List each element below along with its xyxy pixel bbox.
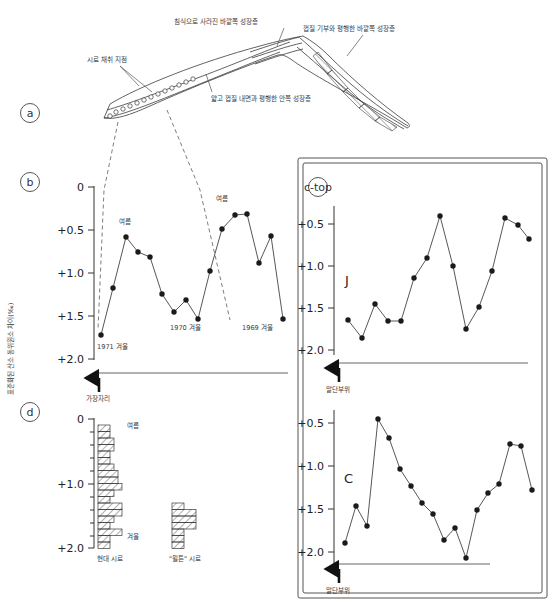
leader-eroded-layer	[277, 28, 284, 46]
leader-outer-layer	[347, 35, 363, 56]
panel-c: c-top +0.5 +1.0 +1.5 +2.0	[297, 158, 547, 598]
panel-c-top-series-name: J	[344, 273, 349, 288]
panel-c-top-series-points	[345, 213, 531, 340]
panel-b-ytick-10: +1.0	[57, 267, 84, 280]
panel-c-tag: c-top	[304, 181, 332, 194]
panel-c-top-series-line	[348, 216, 529, 338]
scientific-figure-svg: a	[0, 0, 553, 611]
leader-sampling-points	[120, 66, 152, 92]
annotation-outer-growth-layer: 껍질 기부와 평행한 바깥쪽 성장층	[303, 24, 395, 33]
panel-c-bottom-series-name: C	[344, 471, 353, 486]
panel-d-y-ticks: 0 +1.0 +2.0	[57, 413, 94, 555]
leader-inner-layer	[206, 74, 212, 92]
shell-cross-section-drawing	[104, 36, 409, 131]
annotation-thin-inner-growth-layer: 얇고 껍질 내면과 평행한 안쪽 성장층	[211, 94, 311, 103]
connector-left-dashed	[98, 122, 118, 330]
connector-right-dashed	[167, 110, 230, 320]
panel-d-ytick-20: +2.0	[57, 542, 84, 555]
panel-c-bottom-ytick-05: +0.5	[297, 417, 324, 430]
right-limb-hatching	[313, 52, 397, 131]
panel-c-bottom-ytick-15: +1.5	[297, 503, 324, 516]
panel-c-bottom-series-line	[345, 419, 532, 558]
panel-c-bottom-chart: +0.5 +1.0 +1.5 +2.0	[297, 410, 534, 595]
panel-c-top-terminal-label: 말단부위	[326, 385, 350, 394]
panel-b-ytick-0: 0	[77, 181, 84, 194]
panel-c-top-ytick-15: +1.5	[297, 302, 324, 315]
panel-d-group-label-wilton: "윌튼" 시료	[169, 554, 201, 563]
panel-b-annotation-winter-1970: 1970 겨울	[170, 323, 201, 332]
panel-d-ytick-10: +1.0	[57, 478, 84, 491]
panel-b-series-points	[98, 211, 285, 337]
panel-b: b 0 +0.5 +1.0 +1.5 +2.0	[21, 173, 289, 404]
panel-c-top-ytick-20: +2.0	[297, 344, 324, 357]
panel-b-tag: b	[27, 176, 34, 189]
panel-c-top-ytick-05: +0.5	[297, 218, 324, 231]
panel-c-top-chart: +0.5 +1.0 +1.5 +2.0	[297, 206, 531, 394]
panel-b-series-line	[101, 214, 283, 335]
panel-b-edge-arrow-label: 가장자리	[86, 394, 110, 403]
panel-c-outer-box	[298, 158, 547, 598]
panel-d-modern-sample-bars	[98, 425, 122, 549]
panel-b-annotation-winter-1969: 1969 겨울	[242, 323, 273, 332]
panel-d-annotation-winter: 겨울	[127, 532, 139, 541]
panel-b-y-ticks: 0 +0.5 +1.0 +1.5 +2.0	[57, 181, 94, 366]
panel-b-ytick-20: +2.0	[57, 353, 84, 366]
panel-c-bottom-ytick-10: +1.0	[297, 460, 324, 473]
figure-root: a	[0, 0, 553, 611]
shared-y-axis-label: 표준화된 산소 동위원소 차이(‰)	[6, 303, 15, 395]
panel-a: a	[21, 17, 410, 330]
panel-b-ytick-05: +0.5	[57, 224, 84, 237]
panel-b-ytick-15: +1.5	[57, 310, 84, 323]
panel-c-top-ytick-10: +1.0	[297, 260, 324, 273]
panel-d: d 0 +1.0 +2.0	[21, 403, 202, 564]
panel-d-ytick-0: 0	[77, 413, 84, 426]
panel-c-bottom-ytick-20: +2.0	[297, 546, 324, 559]
panel-d-annotation-summer: 여름	[127, 421, 139, 430]
panel-b-annotation-summer-right: 여름	[216, 194, 228, 203]
panel-d-tag: d	[27, 406, 34, 419]
panel-b-annotation-summer-left: 여름	[119, 217, 131, 226]
panel-b-annotation-winter-1971: 1971 겨울	[97, 342, 128, 351]
annotation-eroded-outer-growth-layer: 침식으로 사라진 바깥쪽 성장층	[174, 17, 258, 26]
annotation-sampling-points: 시료 채취 지점	[87, 55, 127, 64]
panel-d-wilton-sample-bars	[172, 503, 196, 549]
panel-a-tag: a	[27, 107, 34, 120]
panel-c-bottom-terminal-label: 말단부위	[326, 586, 350, 595]
panel-d-group-label-modern: 현대 시료	[97, 555, 123, 563]
